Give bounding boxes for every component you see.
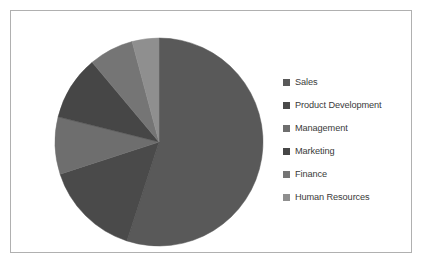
pie-chart xyxy=(11,11,277,252)
legend-item-label: Sales xyxy=(295,71,317,94)
legend-item-management[interactable]: Management xyxy=(283,117,411,140)
legend-item-finance[interactable]: Finance xyxy=(283,163,411,186)
legend-item-marketing[interactable]: Marketing xyxy=(283,140,411,163)
legend-swatch-icon xyxy=(283,171,290,178)
legend-item-label: Product Development xyxy=(295,94,381,117)
legend-swatch-icon xyxy=(283,148,290,155)
legend-item-label: Finance xyxy=(295,163,327,186)
legend-item-sales[interactable]: Sales xyxy=(283,71,411,94)
legend-item-product-development[interactable]: Product Development xyxy=(283,94,411,117)
legend-swatch-icon xyxy=(283,79,290,86)
pie-chart-plot-area xyxy=(11,11,277,252)
chart-legend: Sales Product Development Management Mar… xyxy=(283,71,411,209)
legend-item-label: Management xyxy=(295,117,348,140)
legend-item-label: Human Resources xyxy=(295,186,370,209)
legend-item-label: Marketing xyxy=(295,140,334,163)
legend-swatch-icon xyxy=(283,102,290,109)
chart-frame: Sales Product Development Management Mar… xyxy=(10,10,412,253)
legend-swatch-icon xyxy=(283,125,290,132)
legend-item-human-resources[interactable]: Human Resources xyxy=(283,186,411,209)
legend-swatch-icon xyxy=(283,194,290,201)
